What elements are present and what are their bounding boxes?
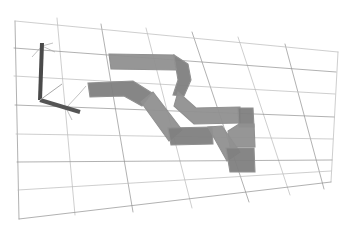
- ribbon-segment-upper-horizontal-bar[interactable]: [109, 54, 176, 70]
- viewport-3d[interactable]: [0, 0, 345, 237]
- scene-canvas[interactable]: [0, 0, 345, 237]
- gizmo-axis-z[interactable]: [40, 43, 42, 100]
- ribbon-segment-lower-end-pad[interactable]: [226, 148, 255, 172]
- ribbon-segment-lower-horizontal[interactable]: [168, 127, 213, 145]
